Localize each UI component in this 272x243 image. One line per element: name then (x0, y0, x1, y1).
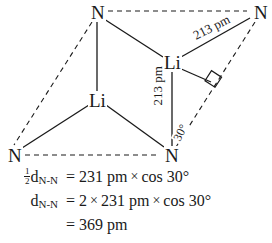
bond-length-label-vertical: 213 pm (151, 65, 164, 106)
equation-block: 1 2 dN-N =231 pm×cos 30° dN-N =2×231 pm×… (0, 165, 272, 237)
equation-line-2-rhs: =2×231 pm×cos 30° (62, 192, 211, 210)
bond-value: 231 pm (79, 168, 127, 186)
atom-label-n-top-right: N (253, 3, 269, 22)
distance-subscript: N-N (38, 198, 58, 210)
distance-subscript: N-N (38, 174, 58, 186)
bond-ntl-liupper (104, 19, 163, 57)
equals-sign: = (62, 168, 79, 186)
atom-label-n-bottom-left: N (7, 146, 23, 165)
equation-line-3-rhs: =369 pm (62, 216, 127, 234)
equals-sign: = (62, 192, 79, 210)
structure-figure: N N Li Li N N 213 pm 213 pm 30° 1 2 dN-N… (0, 0, 272, 243)
factor-two: 2 (79, 192, 87, 210)
equation-line-1-lhs: 1 2 dN-N (0, 168, 58, 187)
equation-line-1: 1 2 dN-N =231 pm×cos 30° (0, 165, 272, 189)
atom-label-li-upper-right: Li (163, 53, 182, 72)
atom-label-li-lower-left: Li (88, 91, 107, 110)
cosine-term: cos 30° (141, 168, 189, 186)
distance-symbol: d (30, 168, 38, 186)
equation-line-1-rhs: =231 pm×cos 30° (62, 168, 189, 186)
equation-line-2-lhs: dN-N (0, 192, 58, 210)
one-half-fraction: 1 2 (24, 167, 31, 186)
edge-dashed-ntl-nbl (14, 22, 92, 145)
atom-label-n-bottom-right: N (164, 146, 180, 165)
bond-lilower-nbl (22, 105, 89, 148)
times-sign-first: × (87, 193, 101, 209)
distance-symbol: d (30, 192, 38, 210)
fraction-denominator: 2 (24, 177, 31, 186)
fraction-numerator: 1 (24, 167, 31, 176)
atom-label-n-top-left: N (90, 3, 106, 22)
times-sign: × (127, 169, 141, 185)
result-value: 369 pm (79, 216, 127, 234)
bond-lilower-nbr (106, 105, 164, 147)
cosine-term: cos 30° (163, 192, 211, 210)
equation-line-2: dN-N =2×231 pm×cos 30° (0, 189, 272, 213)
equation-line-3: =369 pm (0, 213, 272, 237)
equals-sign: = (62, 216, 79, 234)
bond-value: 231 pm (101, 192, 149, 210)
times-sign-second: × (149, 193, 163, 209)
